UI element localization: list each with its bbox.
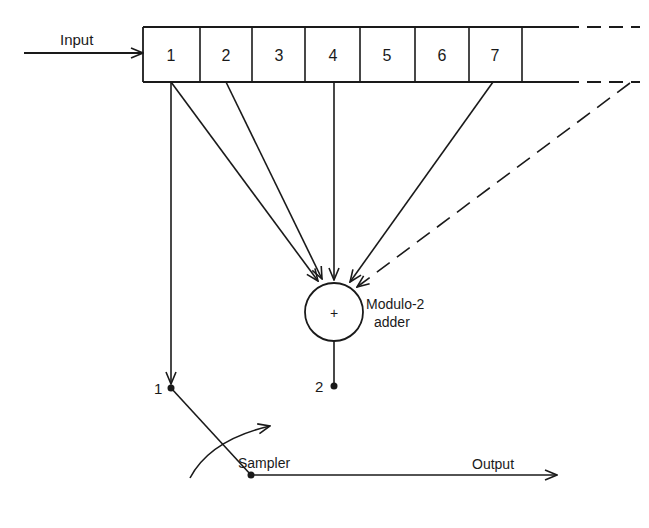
terminal-1-label: 1 [154, 380, 162, 397]
tap-1-to-adder [171, 82, 318, 281]
register-cell-6: 6 [438, 47, 447, 64]
terminal-2-dot [331, 383, 338, 390]
input-label: Input [60, 31, 94, 48]
adder-label-line1: Modulo-2 [366, 296, 425, 312]
register-cell-5: 5 [383, 47, 392, 64]
register-cell-3: 3 [275, 47, 284, 64]
register-cell-4: 4 [329, 47, 338, 64]
adder-plus-icon: + [330, 305, 338, 321]
register-cell-7: 7 [491, 47, 500, 64]
output-label: Output [472, 456, 514, 472]
sampler-label: Sampler [238, 455, 290, 471]
register-cell-2: 2 [222, 47, 231, 64]
tap-2-to-adder [226, 82, 322, 279]
shift-register [143, 27, 640, 82]
tap-connections [171, 82, 630, 287]
register-cell-1: 1 [167, 47, 176, 64]
tap-7-to-adder [350, 82, 493, 282]
tap-dashed-to-adder [357, 83, 630, 287]
adder-label-line2: adder [374, 314, 410, 330]
convolutional-encoder-diagram: Input 1 2 3 4 5 6 7 + Modulo-2 adder 2 [0, 0, 649, 528]
terminal-2-label: 2 [315, 378, 323, 395]
